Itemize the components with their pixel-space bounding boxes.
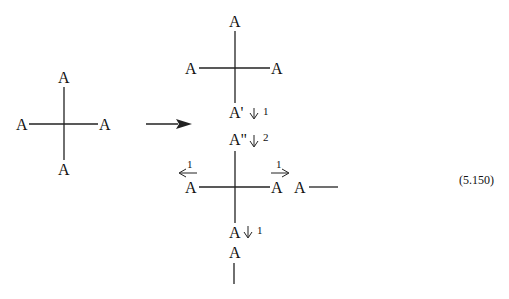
right-vertex1-arrow-label: 1 — [263, 106, 269, 117]
intermediate-label: A" — [229, 132, 247, 148]
tail-label: A — [229, 245, 241, 261]
left-vertex-top-label: A — [58, 70, 70, 86]
right-vertex1-right-label: A — [271, 61, 283, 77]
equation-number: (5.150) — [459, 174, 494, 186]
intermediate-arrow-label: 2 — [263, 132, 269, 143]
right-vertex1-left-label: A — [185, 61, 197, 77]
right-vertex1-bottom-label: A' — [229, 105, 243, 121]
right-vertex2-far-right-label: A — [294, 180, 306, 196]
left-vertex-bottom-label: A — [58, 162, 70, 178]
left-vertex-right-label: A — [99, 117, 111, 133]
diagram-lines — [0, 0, 509, 299]
right-vertex2-right-label: A — [271, 180, 283, 196]
right-vertex1-top-label: A — [229, 14, 241, 30]
right-vertex2-left-label: A — [185, 180, 197, 196]
right-vertex2-bottom-label: A — [229, 225, 241, 241]
right-vertex2-left-arrow-label: 1 — [187, 159, 193, 170]
right-vertex2-right-arrow-label: 1 — [276, 159, 282, 170]
left-vertex-left-label: A — [16, 117, 28, 133]
right-vertex2-bottom-arrow-label: 1 — [257, 225, 263, 236]
